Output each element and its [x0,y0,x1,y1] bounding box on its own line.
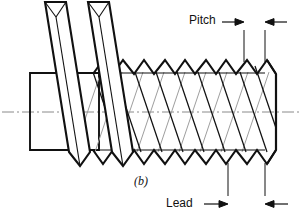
pitch-label: Pitch [189,14,216,26]
pitch-dimension [222,19,287,62]
thread-ribbon-start-1 [45,2,90,166]
pitch-arrowhead-left [235,19,244,26]
lead-arrowhead-left [219,201,228,208]
lead-label: Lead [166,197,193,209]
pitch-arrowhead-right [265,19,274,26]
figure-container: Pitch Lead (b) [0,0,301,223]
thread-ribbon-start-2 [88,2,133,166]
lead-arrowhead-right [265,201,274,208]
lead-dimension [204,163,288,207]
screw-thread-diagram [0,0,301,223]
figure-caption: (b) [134,175,148,187]
